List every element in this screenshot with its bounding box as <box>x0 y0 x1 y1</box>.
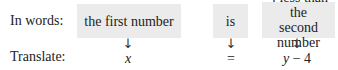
down-arrow-icon: ↓ <box>292 37 303 50</box>
phrase-text: the first number <box>84 14 173 29</box>
translate-label: Translate: <box>10 49 65 65</box>
in-words-label: In words: <box>10 13 63 29</box>
translation-equals: = <box>227 51 235 67</box>
down-arrow-icon: ↓ <box>123 37 134 50</box>
down-arrow-icon: ↓ <box>226 37 237 50</box>
phrase-box-second-number: 4 less than the second number <box>262 2 335 38</box>
minus-four: − 4 <box>289 51 311 66</box>
phrase-box-first-number: the first number <box>77 4 181 38</box>
translation-x: x <box>125 51 131 67</box>
translation-y-minus-4: y − 4 <box>283 51 311 67</box>
phrase-text: is <box>226 14 235 29</box>
phrase-text-line1: 4 less than the <box>262 0 335 20</box>
phrase-box-is: is <box>213 4 248 38</box>
